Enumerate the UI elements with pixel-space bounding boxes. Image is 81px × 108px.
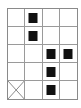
grid-cell[interactable] — [43, 9, 60, 27]
grid-cell[interactable] — [25, 27, 42, 45]
filled-block — [46, 85, 55, 95]
grid-cell[interactable] — [8, 63, 25, 81]
grid-cell[interactable] — [8, 45, 25, 63]
grid-cell[interactable] — [43, 45, 60, 63]
grid-cell[interactable] — [43, 81, 60, 99]
grid-cell[interactable] — [8, 27, 25, 45]
grid-cell[interactable] — [60, 81, 77, 99]
grid-cell[interactable] — [60, 63, 77, 81]
filled-block — [46, 67, 55, 77]
grid-cell[interactable] — [60, 27, 77, 45]
grid-cell[interactable] — [25, 81, 42, 99]
grid-cell[interactable] — [25, 45, 42, 63]
grid-cell[interactable] — [60, 45, 77, 63]
filled-block — [64, 49, 73, 59]
filled-block — [29, 31, 38, 41]
cross-icon — [8, 81, 24, 99]
grid-cell[interactable] — [25, 63, 42, 81]
filled-block — [46, 49, 55, 59]
grid-cell[interactable] — [43, 27, 60, 45]
grid-cell[interactable] — [8, 9, 25, 27]
puzzle-grid — [7, 8, 78, 100]
grid-cell[interactable] — [25, 9, 42, 27]
grid-cell[interactable] — [60, 9, 77, 27]
grid-cell[interactable] — [43, 63, 60, 81]
filled-block — [29, 13, 38, 23]
grid-cell[interactable] — [8, 81, 25, 99]
